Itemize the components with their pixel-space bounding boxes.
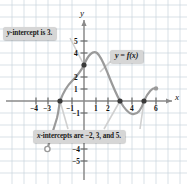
x-tick-label-6: 6 <box>154 104 158 113</box>
callout-x-intercepts: x-intercepts are −2, 3, and 5. <box>33 130 125 143</box>
x-axis-arrow <box>166 98 172 103</box>
x-tick-label-2: 2 <box>106 104 110 113</box>
closed-endpoint-marker <box>154 86 158 90</box>
y-tick-label-neg1: −1 <box>72 109 80 118</box>
y-tick-label-neg5: −5 <box>72 157 80 166</box>
y-intercept-point <box>81 62 86 67</box>
y-axis-title: y <box>80 8 84 18</box>
y-tick-label-5: 5 <box>74 37 78 46</box>
graph-figure: y x −4 −3 −1 1 2 4 6 5 4 2 1 −1 −4 −5 y-… <box>0 0 187 184</box>
axes <box>6 20 172 180</box>
x-axis-title: x <box>175 92 179 102</box>
callout-function-label: y = f(x) <box>110 50 143 63</box>
y-tick-label-1: 1 <box>74 85 78 94</box>
x-tick-label-neg4: −4 <box>30 104 38 113</box>
y-tick-label-neg4: −4 <box>72 145 80 154</box>
y-tick-label-2: 2 <box>74 73 78 82</box>
y-axis-arrow <box>81 20 86 26</box>
y-tick-label-4: 4 <box>74 49 78 58</box>
open-endpoint-marker <box>45 146 50 151</box>
callout-x-intercepts-text: -intercepts are −2, 3, and 5. <box>41 132 121 140</box>
x-tick-label-4: 4 <box>130 104 134 113</box>
x-intercept-point-5 <box>141 98 146 103</box>
x-tick-label-1: 1 <box>94 104 98 113</box>
x-intercept-point-3 <box>117 98 122 103</box>
x-tick-label-neg3: −3 <box>43 104 51 113</box>
x-intercept-point-neg2 <box>57 98 62 103</box>
callout-y-intercept: y-intercept is 3. <box>3 27 56 40</box>
callout-y-intercept-text: -intercept is 3. <box>10 29 52 37</box>
